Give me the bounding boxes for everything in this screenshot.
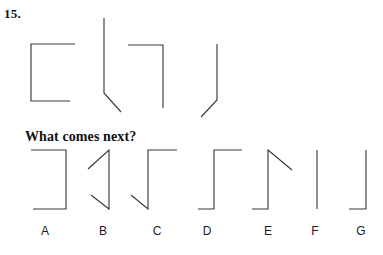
option-label-d[interactable]: D: [196, 224, 218, 239]
pattern-sequence: [0, 0, 383, 130]
sequence-figure-2: [104, 18, 121, 112]
option-label-g[interactable]: G: [350, 224, 372, 239]
option-shape-d[interactable]: [198, 150, 242, 209]
sequence-figure-3: [128, 45, 163, 108]
option-labels-row: A B C D E F G: [0, 224, 383, 246]
option-shape-b[interactable]: [88, 150, 109, 209]
option-label-a[interactable]: A: [34, 224, 56, 239]
option-label-e[interactable]: E: [257, 224, 279, 239]
option-label-f[interactable]: F: [304, 224, 326, 239]
answer-options-shapes: [0, 143, 383, 223]
option-shape-e[interactable]: [252, 150, 292, 209]
option-shape-g[interactable]: [349, 150, 366, 209]
sequence-figure-1: [31, 44, 75, 101]
option-label-b[interactable]: B: [92, 224, 114, 239]
option-shape-c[interactable]: [131, 150, 177, 209]
option-label-c[interactable]: C: [146, 224, 168, 239]
option-shape-a[interactable]: [31, 150, 66, 209]
sequence-figure-4: [201, 44, 217, 117]
